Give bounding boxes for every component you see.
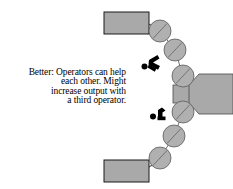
station-2 — [164, 39, 186, 61]
operator-lower-icon — [150, 108, 166, 121]
station-6 — [149, 147, 171, 169]
station-5 — [163, 125, 185, 147]
station-3 — [172, 65, 194, 87]
operator-upper-icon — [142, 55, 161, 72]
bottom-output-bin — [104, 160, 149, 182]
caption-line-4: a third operator. — [8, 96, 126, 105]
station-4 — [172, 101, 194, 123]
station-1 — [149, 20, 171, 42]
machine-body — [189, 74, 233, 114]
caption-text: Better: Operators can help each other. M… — [8, 68, 126, 106]
diagram-canvas: Better: Operators can help each other. M… — [0, 0, 233, 189]
machine-left-tab — [173, 85, 191, 103]
top-output-bin — [104, 12, 149, 34]
